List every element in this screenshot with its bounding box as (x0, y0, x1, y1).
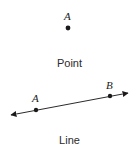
line-point-a-dot (34, 108, 38, 112)
point-caption: Point (0, 57, 139, 69)
line-point-b-dot (108, 94, 112, 98)
point-dot (66, 26, 71, 31)
line-caption: Line (0, 134, 139, 146)
geometry-figure-canvas: A Point A B Line (0, 0, 139, 151)
line-label-a: A (32, 92, 39, 104)
line-label-b: B (106, 79, 113, 91)
point-label-a: A (64, 10, 71, 22)
figure-svg (0, 0, 139, 151)
